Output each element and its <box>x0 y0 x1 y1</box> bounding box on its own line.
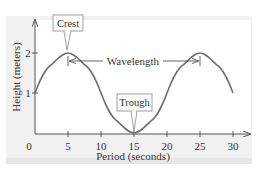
x-tick-label-5: 5 <box>65 140 71 152</box>
x-axis-title: Period (seconds) <box>96 150 170 163</box>
y-axis-title: Height (meters) <box>10 42 23 112</box>
trough-label: Trough <box>119 97 150 108</box>
y-tick-label-2: 2 <box>25 47 31 59</box>
x-tick-label-25: 25 <box>195 140 207 152</box>
x-tick-label-0: 0 <box>26 140 32 152</box>
wavelength-label: Wavelength <box>107 55 160 67</box>
y-tick-label-1: 1 <box>25 87 31 99</box>
wave-chart: 0 5 10 15 20 25 30 2 1 Period (seconds) … <box>0 0 264 174</box>
x-tick-label-30: 30 <box>228 140 240 152</box>
crest-label: Crest <box>57 18 79 29</box>
